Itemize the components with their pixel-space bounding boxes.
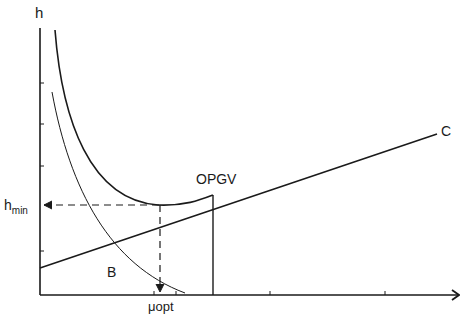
mu-opt-arrow-icon: [156, 284, 164, 292]
diagram: [0, 0, 460, 318]
line-c: [40, 134, 437, 268]
opgv-label: OPGV: [196, 172, 236, 186]
h-min-main: h: [4, 197, 12, 213]
h-min-sub: min: [12, 205, 28, 216]
h-min-label: hmin: [4, 198, 28, 216]
line-c-label: C: [441, 124, 451, 138]
y-axis-label: h: [35, 5, 43, 20]
curve-total: [55, 30, 213, 205]
curve-b-label: B: [107, 265, 116, 279]
h-min-arrow-icon: [44, 201, 52, 209]
mu-opt-label: μopt: [148, 300, 174, 313]
